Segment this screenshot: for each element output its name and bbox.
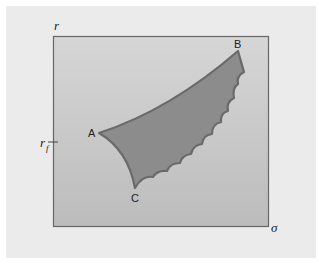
- y-axis-label: r: [54, 18, 60, 33]
- feasible-set-diagram: r σ r f A B C: [0, 0, 319, 264]
- point-label-a: A: [88, 127, 96, 139]
- x-axis-label: σ: [271, 220, 278, 235]
- risk-free-subscript: f: [46, 143, 50, 153]
- point-label-b: B: [234, 38, 241, 50]
- point-label-c: C: [131, 192, 139, 204]
